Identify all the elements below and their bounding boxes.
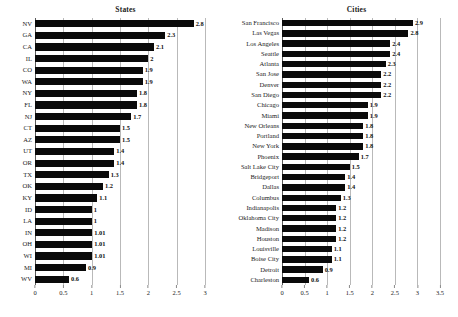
bar: 1.9: [282, 112, 368, 118]
bar-value-label: 1.01: [94, 230, 105, 236]
category-label: FL: [24, 102, 32, 109]
bar-value-label: 2.2: [383, 71, 391, 77]
bar-value-label: 1.1: [334, 246, 342, 252]
bar: 2.1: [35, 43, 154, 50]
bar-row: NV2.8: [35, 20, 205, 27]
bar: 1.2: [35, 183, 103, 190]
bar-value-label: 0.6: [311, 277, 319, 283]
bar-row: Chicago1.9: [282, 102, 440, 108]
bar-value-label: 2.3: [388, 61, 396, 67]
x-tick: 3: [203, 285, 206, 297]
category-label: Chicago: [257, 102, 279, 109]
figure-root: States NV2.8GA2.3CA2.1IL2CO1.9WA1.9NY1.8…: [0, 0, 458, 317]
bar: 1.4: [35, 160, 114, 167]
category-label: CT: [24, 125, 32, 132]
x-tick-label: 1: [90, 290, 93, 297]
x-tick-label: 1.5: [346, 290, 354, 297]
bar-value-label: 1.8: [365, 123, 373, 129]
bar: 2.8: [282, 30, 408, 36]
bar-value-label: 1.01: [94, 241, 105, 247]
tick-mark: [120, 285, 121, 288]
bar-row: UT1.4: [35, 148, 205, 155]
bar-value-label: 2.8: [410, 30, 418, 36]
x-axis-ticks-cities: 00.511.522.533.5: [282, 285, 440, 309]
category-label: LA: [23, 218, 32, 225]
tick-mark: [304, 285, 305, 288]
category-label: WV: [21, 276, 32, 283]
category-label: IN: [25, 229, 32, 236]
x-tick: 3.5: [436, 285, 444, 297]
bar-value-label: 1.3: [343, 194, 351, 200]
chart-panel-cities: Cities San Francisco2.9Las Vegas2.8Los A…: [225, 0, 458, 317]
category-label: CA: [23, 44, 32, 51]
bar-value-label: 0.9: [88, 264, 96, 270]
bar: 1.01: [35, 241, 92, 248]
category-label: New York: [252, 143, 279, 150]
bar-value-label: 1.8: [139, 90, 147, 96]
bar-row: CT1.5: [35, 125, 205, 132]
category-label: MI: [24, 264, 32, 271]
bar: 1.1: [282, 256, 332, 262]
category-label: Phoenix: [257, 153, 279, 160]
category-label: Denver: [260, 81, 279, 88]
bar-value-label: 1.5: [352, 164, 360, 170]
bar-row: Indianapolis1.2: [282, 205, 440, 211]
category-label: AZ: [23, 137, 32, 144]
bar: 1.4: [35, 148, 114, 155]
bar: 1.7: [282, 153, 359, 159]
bar-row: Phoenix1.7: [282, 153, 440, 159]
x-tick-label: 0: [280, 290, 283, 297]
bar-value-label: 0.6: [71, 276, 79, 282]
bar: 2.9: [282, 20, 413, 26]
category-label: OK: [22, 183, 32, 190]
bar: 1.5: [35, 136, 120, 143]
bar-value-label: 1.2: [338, 205, 346, 211]
category-label: Indianapolis: [246, 205, 279, 212]
x-tick-label: 0: [33, 290, 36, 297]
bar: 0.6: [282, 277, 309, 283]
chart-title-cities: Cities: [225, 5, 458, 14]
bar-value-label: 1.2: [338, 236, 346, 242]
category-label: OR: [23, 160, 32, 167]
category-label: Detroit: [260, 266, 279, 273]
plot-area-states: NV2.8GA2.3CA2.1IL2CO1.9WA1.9NY1.8FL1.8NJ…: [35, 18, 205, 285]
bar-row: FL1.8: [35, 101, 205, 108]
category-label: San Diego: [251, 92, 279, 99]
bar-row: Denver2.2: [282, 82, 440, 88]
bar-row: IN1.01: [35, 229, 205, 236]
bar: 1.01: [35, 252, 92, 259]
x-tick-label: 3.5: [436, 290, 444, 297]
category-label: TX: [23, 171, 32, 178]
bar-value-label: 1.4: [116, 148, 124, 154]
x-tick-label: 1: [326, 290, 329, 297]
bar-row: Louisville1.1: [282, 246, 440, 252]
bar-value-label: 1.9: [145, 79, 153, 85]
category-label: Portland: [257, 133, 279, 140]
plot-area-cities: San Francisco2.9Las Vegas2.8Los Angeles2…: [282, 18, 440, 285]
tick-mark: [91, 285, 92, 288]
bar-row: Houston1.2: [282, 236, 440, 242]
bar: 1.4: [282, 174, 345, 180]
bar: 1.2: [282, 215, 336, 221]
tick-mark: [417, 285, 418, 288]
gridline: [440, 18, 441, 285]
bar: 2.2: [282, 71, 381, 77]
bar: 2.8: [35, 20, 194, 27]
bar-value-label: 2.2: [383, 82, 391, 88]
bar-row: Bridgeport1.4: [282, 174, 440, 180]
x-tick: 0: [33, 285, 36, 297]
x-tick-label: 2: [371, 290, 374, 297]
bar-value-label: 1: [94, 206, 97, 212]
bar-row: Atlanta2.3: [282, 61, 440, 67]
bar-value-label: 2.9: [415, 20, 423, 26]
chart-panel-states: States NV2.8GA2.3CA2.1IL2CO1.9WA1.9NY1.8…: [0, 0, 225, 317]
category-label: KY: [22, 195, 32, 202]
bar-row: GA2.3: [35, 32, 205, 39]
category-label: New Orleans: [244, 123, 279, 130]
bar: 2.3: [282, 61, 386, 67]
gridline: [205, 18, 206, 285]
bar: 1.3: [282, 195, 341, 201]
category-label: Louisville: [252, 246, 279, 253]
bar: 2: [35, 55, 148, 62]
category-label: San Jose: [256, 71, 279, 78]
